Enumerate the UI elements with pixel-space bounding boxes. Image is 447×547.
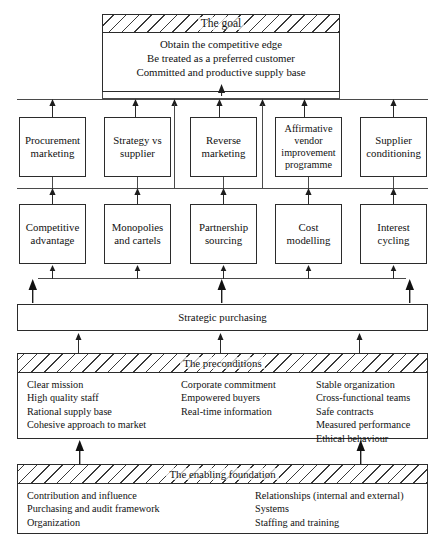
- upper-tier-box-3-line-1: Reverse: [206, 134, 241, 147]
- preconditions-c1-item-4: Cohesive approach to market: [27, 418, 146, 431]
- preconditions-c3-item-4: Measured performance: [316, 418, 410, 431]
- goal-band-label: The goal: [198, 17, 245, 31]
- foundation-band-label: The enabling foundation: [166, 468, 278, 480]
- riser-gap-1: [174, 104, 175, 189]
- precond-up-arrow-3: [355, 333, 364, 353]
- preconditions-c3-item-3: Safe contracts: [316, 405, 410, 418]
- rail-top-arrow-7: [389, 99, 398, 117]
- preconditions-c1-item-1: Clear mission: [27, 378, 146, 391]
- strategic-up-arrow-2: [216, 279, 228, 303]
- preconditions-c2-item-1: Corporate commitment: [181, 378, 276, 391]
- lower-tier-box-4: Cost modelling: [275, 204, 342, 264]
- lower-tier-box-5: Interest cycling: [360, 204, 427, 264]
- strategic-purchasing-label: Strategic purchasing: [178, 311, 266, 324]
- foundation-c2-item-3: Staffing and training: [255, 516, 404, 529]
- lower-tier-box-2: Monopolies and cartels: [104, 204, 171, 264]
- rail-low-arrow-5: [389, 265, 398, 279]
- lower-tier-box-2-line-1: Monopolies: [112, 221, 164, 234]
- upper-tier-box-2: Strategy vs supplier: [104, 117, 171, 177]
- preconditions-c2-item-2: Empowered buyers: [181, 391, 276, 404]
- foundation-c2-item-2: Systems: [255, 502, 404, 515]
- precond-up-arrow-2: [216, 333, 225, 353]
- preconditions-column-3: Stable organization Cross-functional tea…: [316, 378, 410, 445]
- preconditions-c2-item-3: Real-time information: [181, 405, 276, 418]
- rail-low-arrow-2: [133, 265, 142, 279]
- precond-up-arrow-1: [74, 333, 83, 353]
- upper-tier-box-4-line-3: improvement: [281, 147, 335, 159]
- upper-tier-box-5-line-2: conditioning: [366, 147, 421, 160]
- rail-low-arrow-3: [219, 265, 228, 279]
- lower-tier-box-4-line-2: modelling: [287, 234, 331, 247]
- foundation-c2-item-1: Relationships (internal and external): [255, 489, 404, 502]
- preconditions-panel: The preconditions Clear mission High qua…: [17, 353, 428, 439]
- foundation-c1-item-3: Organization: [27, 516, 160, 529]
- lower-tier-box-3-line-1: Partnership: [199, 221, 248, 234]
- lower-tier-box-2-line-2: and cartels: [114, 234, 160, 247]
- preconditions-c1-item-3: Rational supply base: [27, 405, 146, 418]
- rail-top-arrow-2: [131, 99, 140, 117]
- foundation-c1-item-2: Purchasing and audit framework: [27, 502, 160, 515]
- upper-tier-box-2-line-2: supplier: [120, 147, 155, 160]
- upper-tier-box-5: Supplier conditioning: [360, 117, 427, 177]
- foundation-band: The enabling foundation: [17, 464, 428, 484]
- foundation-column-2: Relationships (internal and external) Sy…: [255, 489, 404, 529]
- preconditions-c3-item-2: Cross-functional teams: [316, 391, 410, 404]
- foundation-panel: The enabling foundation Contribution and…: [17, 464, 428, 534]
- upper-tier-box-1-line-1: Procurement: [25, 134, 80, 147]
- lower-tier-box-1: Competitive advantage: [19, 204, 86, 264]
- upper-tier-box-4-line-2: vendor: [294, 135, 322, 147]
- preconditions-c1-item-2: High quality staff: [27, 391, 146, 404]
- strategic-up-arrow-3: [404, 279, 416, 303]
- preconditions-column-1: Clear mission High quality staff Rationa…: [27, 378, 146, 432]
- upper-tier-box-5-line-1: Supplier: [375, 134, 412, 147]
- foundation-c1-item-1: Contribution and influence: [27, 489, 160, 502]
- goal-band: The goal: [102, 14, 340, 33]
- lower-tier-box-4-line-1: Cost: [299, 221, 319, 234]
- upper-tier-box-1-line-2: marketing: [31, 147, 75, 160]
- preconditions-column-2: Corporate commitment Empowered buyers Re…: [181, 378, 276, 418]
- strategic-up-arrow-1: [27, 279, 39, 303]
- upper-tier-box-3: Reverse marketing: [190, 117, 257, 177]
- preconditions-band-label: The preconditions: [180, 357, 264, 369]
- lower-tier-box-1-line-2: advantage: [31, 234, 75, 247]
- lower-tier-box-3: Partnership sourcing: [190, 204, 257, 264]
- goal-line-1: Obtain the competitive edge: [103, 37, 339, 51]
- goal-box: The goal Obtain the competitive edge Be …: [102, 14, 340, 92]
- riser-gap-2: [262, 104, 263, 189]
- rail-top-arrow-4: [215, 99, 224, 117]
- rail-low-arrow-1: [48, 265, 57, 279]
- rail-low-arrow-4: [304, 265, 313, 279]
- preconditions-band: The preconditions: [17, 353, 428, 373]
- preconditions-c3-item-1: Stable organization: [316, 378, 410, 391]
- upper-tier-box-1: Procurement marketing: [19, 117, 86, 177]
- goal-line-3: Committed and productive supply base: [103, 65, 339, 79]
- goal-text-block: Obtain the competitive edge Be treated a…: [103, 37, 339, 79]
- foundation-column-1: Contribution and influence Purchasing an…: [27, 489, 160, 529]
- goal-arrow-icon: [216, 84, 227, 96]
- foundation-up-arrow-1: [74, 440, 86, 464]
- upper-tier-box-2-line-1: Strategy vs: [113, 134, 161, 147]
- lower-tier-box-5-line-1: Interest: [377, 221, 409, 234]
- strategic-purchasing-bar: Strategic purchasing: [17, 304, 428, 331]
- upper-tier-box-4-line-4: programme: [285, 159, 332, 171]
- rail-top-arrow-1: [48, 99, 57, 117]
- upper-tier-box-3-line-2: marketing: [202, 147, 246, 160]
- lower-tier-box-5-line-2: cycling: [378, 234, 410, 247]
- upper-tier-box-4-line-1: Affirmative: [285, 123, 333, 135]
- goal-line-2: Be treated as a preferred customer: [103, 51, 339, 65]
- foundation-up-arrow-2: [355, 440, 367, 464]
- lower-tier-box-3-line-2: sourcing: [205, 234, 242, 247]
- upper-tier-box-4: Affirmative vendor improvement programme: [275, 117, 342, 177]
- rail-top-arrow-6: [300, 99, 309, 117]
- lower-tier-box-1-line-1: Competitive: [26, 221, 79, 234]
- strategic-purchasing-diagram: The goal Obtain the competitive edge Be …: [0, 0, 447, 547]
